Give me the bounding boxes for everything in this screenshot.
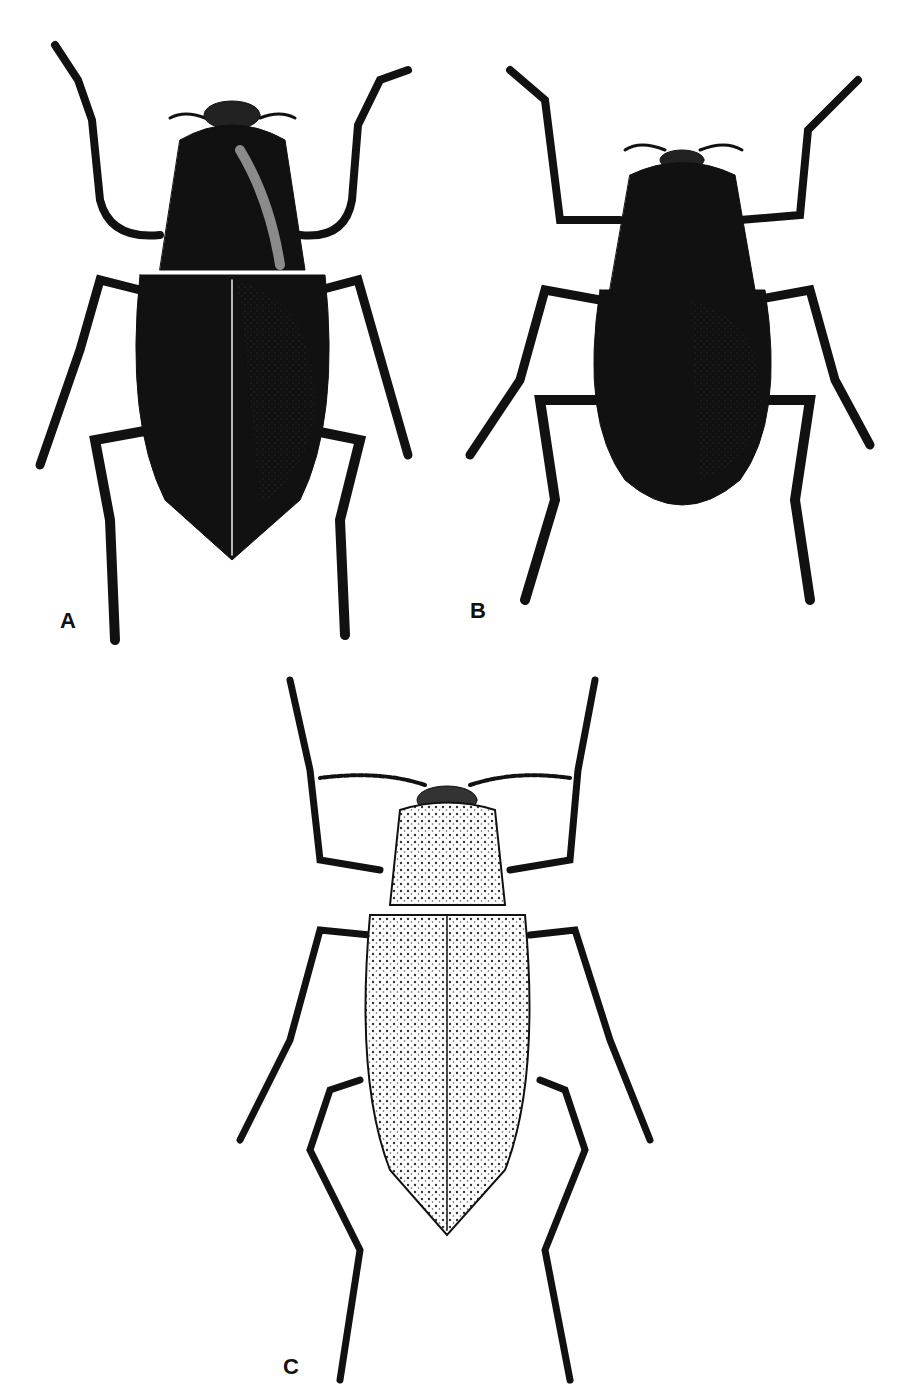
beetle-a: [40, 45, 408, 640]
beetle-c: [240, 680, 650, 1380]
figure-label-c: C: [283, 1354, 299, 1380]
figure-label-b: B: [470, 598, 486, 624]
beetle-b: [470, 70, 870, 600]
illustration-plate: A B C: [0, 0, 909, 1389]
beetle-illustrations: [0, 0, 909, 1389]
figure-label-a: A: [60, 608, 76, 634]
